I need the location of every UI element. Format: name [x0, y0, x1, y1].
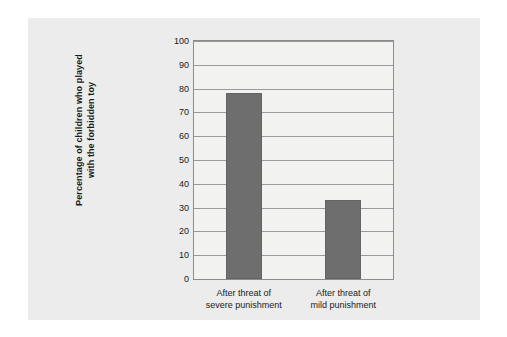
gridline: [194, 112, 393, 113]
y-axis-title-line-1: Percentage of children who played: [73, 10, 85, 250]
y-axis-tick-label: 70: [179, 107, 189, 117]
gridline: [194, 184, 393, 185]
gridline: [194, 41, 393, 42]
figure-panel: Percentage of children who played with t…: [28, 18, 480, 320]
bar: [325, 200, 361, 279]
x-axis-tick-label: After threat ofmild punishment: [310, 287, 376, 311]
gridline: [194, 208, 393, 209]
y-axis-tick-label: 50: [179, 155, 189, 165]
y-axis-tick-label: 90: [179, 60, 189, 70]
gridline: [194, 65, 393, 66]
gridline: [194, 231, 393, 232]
x-axis-tick-label-line: After threat of: [310, 287, 376, 299]
gridline: [194, 89, 393, 90]
x-axis-tick-label-line: severe punishment: [206, 299, 282, 311]
y-axis-tick-label: 10: [179, 250, 189, 260]
gridline: [194, 255, 393, 256]
x-axis-tick-label: After threat ofsevere punishment: [206, 287, 282, 311]
x-axis-tick-label-line: mild punishment: [310, 299, 376, 311]
y-axis-tick-label: 60: [179, 131, 189, 141]
gridline: [194, 160, 393, 161]
y-axis-tick-label: 20: [179, 226, 189, 236]
x-axis-tick-label-line: After threat of: [206, 287, 282, 299]
y-axis-tick-label: 100: [174, 36, 189, 46]
plot-area: 0102030405060708090100 After threat ofse…: [193, 40, 394, 280]
bar: [226, 93, 262, 279]
y-axis-tick-label: 0: [184, 274, 189, 284]
y-axis-title-line-2: with the forbidden toy: [85, 10, 97, 250]
y-axis-tick-label: 80: [179, 84, 189, 94]
y-axis-title: Percentage of children who played with t…: [73, 10, 97, 250]
gridline: [194, 136, 393, 137]
y-axis-tick-label: 40: [179, 179, 189, 189]
y-axis-tick-label: 30: [179, 203, 189, 213]
